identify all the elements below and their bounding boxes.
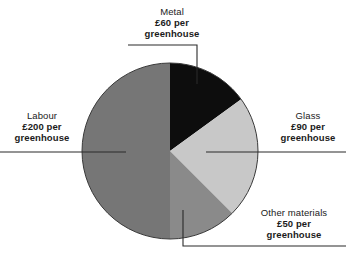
slice-label-metal-amount: £60 per	[120, 17, 224, 28]
slice-label-other-materials: Other materials £50 per greenhouse	[244, 207, 344, 241]
slice-label-glass-amount: £90 per	[272, 121, 344, 132]
slice-label-glass-category: Glass	[272, 110, 344, 121]
slice-label-labour-category: Labour	[2, 110, 82, 121]
slice-label-metal-category: Metal	[120, 6, 224, 17]
slice-label-other-materials-category: Other materials	[244, 207, 344, 218]
slice-label-other-materials-unit: greenhouse	[244, 229, 344, 240]
slice-label-labour-unit: greenhouse	[2, 132, 82, 143]
slice-label-metal: Metal £60 per greenhouse	[120, 6, 224, 40]
slice-label-other-materials-amount: £50 per	[244, 218, 344, 229]
pie-chart-figure: Metal £60 per greenhouse Glass £90 per g…	[0, 0, 346, 259]
slice-label-metal-unit: greenhouse	[120, 28, 224, 39]
slice-label-labour: Labour £200 per greenhouse	[2, 110, 82, 144]
slice-label-glass-unit: greenhouse	[272, 132, 344, 143]
pie-slice-labour	[82, 63, 170, 239]
slice-label-glass: Glass £90 per greenhouse	[272, 110, 344, 144]
slice-label-labour-amount: £200 per	[2, 121, 82, 132]
